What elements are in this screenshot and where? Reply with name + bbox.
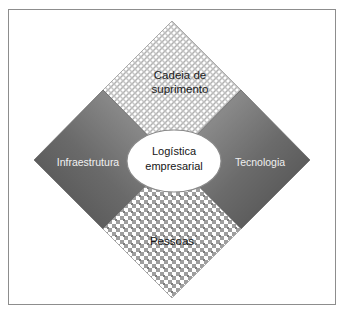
diamond-diagram <box>0 0 346 315</box>
center-ellipse-shape <box>127 130 221 192</box>
diagram-figure: Cadeia de suprimento Infraestrutura Tecn… <box>0 0 346 315</box>
